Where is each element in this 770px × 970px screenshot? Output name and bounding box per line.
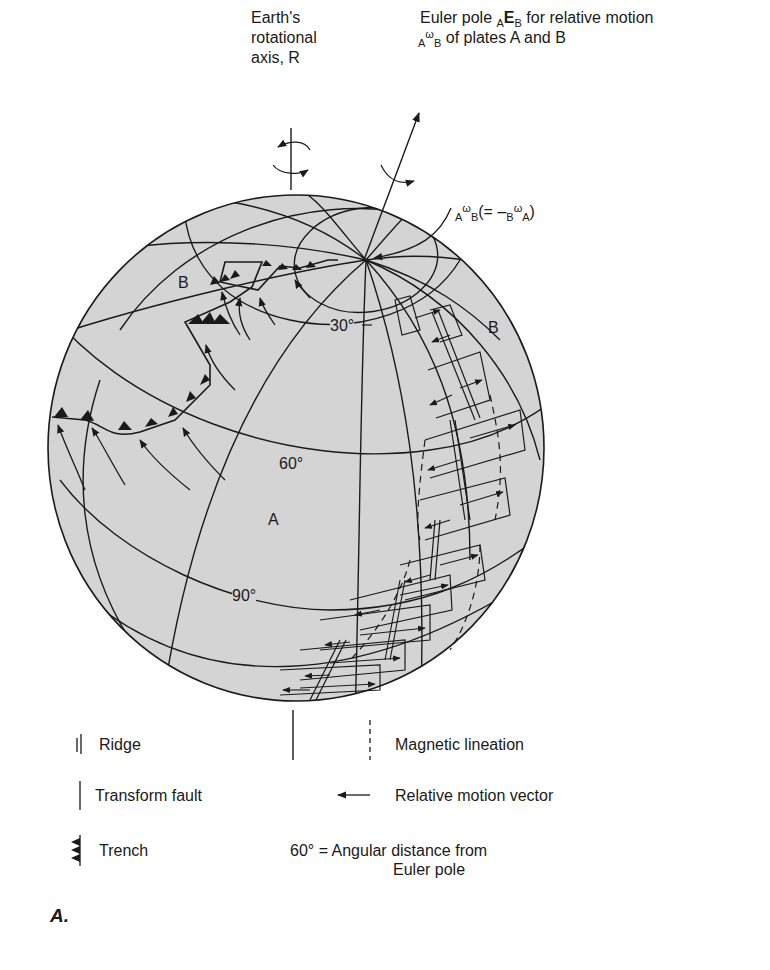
figure-label: A. <box>50 905 69 927</box>
angle-30-label: 30° <box>330 316 354 335</box>
euler-pole-title: Euler pole AEB for relative motion <box>420 8 653 29</box>
plate-b-left-label: B <box>178 273 189 292</box>
legend-angular-distance: 60° = Angular distance from Euler pole <box>290 841 487 879</box>
legend-magnetic-lineation: Magnetic lineation <box>395 735 524 754</box>
earth-axis-label: Earth's rotational axis, R <box>251 8 317 68</box>
plate-b-right-label: B <box>488 318 499 337</box>
angle-60-label: 60° <box>279 454 303 473</box>
globe-sphere <box>48 195 544 701</box>
legend-trench: Trench <box>99 841 148 860</box>
euler-rotation-arrow <box>381 165 414 182</box>
rotation-arrow-top <box>278 142 310 150</box>
legend-ridge: Ridge <box>99 735 141 754</box>
globe-diagram <box>0 0 770 970</box>
euler-pole-subtitle: AωB of plates A and B <box>418 28 566 49</box>
plate-a-label: A <box>268 510 279 529</box>
angle-90-label: 90° <box>232 586 256 605</box>
omega-label: AωB(= –BωA) <box>455 202 535 223</box>
legend-relative-motion-vector: Relative motion vector <box>395 786 553 805</box>
legend-transform-fault: Transform fault <box>95 786 202 805</box>
